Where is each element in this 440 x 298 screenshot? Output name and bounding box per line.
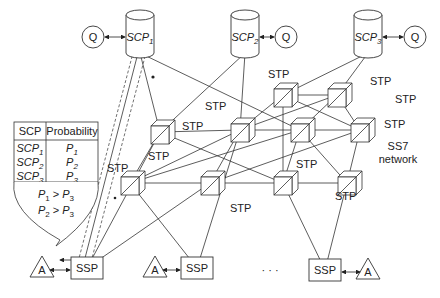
stp-label: STP [205, 100, 226, 112]
signaling-link [130, 183, 197, 268]
stp-label: STP [335, 190, 356, 202]
stp-switch-c[interactable] [151, 120, 175, 144]
ssp-switch-1[interactable]: SSP [71, 257, 103, 279]
agent-label: A [151, 264, 159, 276]
scp-database-3[interactable]: SCP3 [354, 10, 382, 58]
agent-node-1[interactable]: A [30, 256, 54, 277]
cylinder-top [231, 10, 259, 20]
query-path-dashed-right [91, 53, 146, 262]
agent-node-3[interactable]: A [356, 258, 380, 279]
signaling-link [197, 130, 240, 268]
ssp-switch-3[interactable]: SSP [309, 259, 341, 281]
signaling-link [87, 183, 210, 268]
ssp-label: SSP [186, 262, 208, 274]
stp-label: STP [296, 158, 317, 170]
stp-label: STP [230, 202, 251, 214]
network-label: network [379, 153, 418, 165]
stp-label: STP [148, 150, 169, 162]
probability-table: SCPProbabilitySCP1P1SCP2P2SCP3P3P1 > P3P… [14, 122, 99, 246]
stp-label: STP [268, 68, 289, 80]
query-label: Q [89, 31, 98, 43]
network-label: SS7 [388, 140, 409, 152]
table-header-scp: SCP [19, 125, 42, 137]
stp-label: STP [107, 162, 128, 174]
query-node-2[interactable]: Q [275, 26, 297, 48]
stp-label: STP [384, 118, 405, 130]
stp-label: STP [182, 120, 203, 132]
stp-switch-f[interactable] [351, 118, 375, 142]
signaling-link [283, 183, 325, 270]
query-node-1[interactable]: Q [82, 26, 104, 48]
stp-switch-g[interactable] [121, 171, 145, 195]
query-label: Q [411, 31, 420, 43]
agent-node-2[interactable]: A [143, 256, 167, 277]
stp-label: STP [370, 75, 391, 87]
stp-switch-b[interactable] [328, 83, 352, 107]
ssp-label: SSP [76, 262, 98, 274]
response-message-dot [114, 197, 117, 200]
ssp-switch-2[interactable]: SSP [181, 257, 213, 279]
agent-label: A [38, 264, 46, 276]
scp-database-1[interactable]: SCP1 [126, 10, 154, 58]
table-header-probability: Probability [46, 125, 98, 137]
query-label: Q [282, 31, 291, 43]
ss7-network-diagram: SCP1QSCP2QSCP3QSSPASSPASSPA STPSTPSTPSTP… [0, 0, 440, 298]
stp-switch-e[interactable] [291, 118, 315, 142]
scp-database-2[interactable]: SCP2 [231, 10, 259, 58]
stp-switch-d[interactable] [231, 118, 255, 142]
agent-label: A [364, 266, 372, 278]
query-message-dot [151, 75, 154, 78]
cylinder-top [354, 10, 382, 20]
stp-switch-a[interactable] [274, 83, 298, 107]
query-node-3[interactable]: Q [404, 26, 426, 48]
ssp-label: SSP [314, 264, 336, 276]
stp-label: STP [395, 93, 416, 105]
stp-switch-h[interactable] [201, 171, 225, 195]
cylinder-top [126, 10, 154, 20]
ellipsis: · · · [261, 264, 278, 276]
stp-switch-i[interactable] [274, 171, 298, 195]
